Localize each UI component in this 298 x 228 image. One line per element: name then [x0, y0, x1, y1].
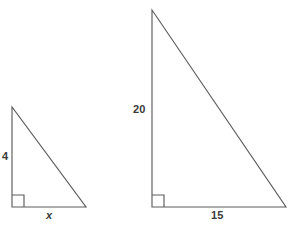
large-right-triangle-group	[152, 10, 286, 207]
small-right-triangle-group	[12, 107, 86, 207]
large-triangle-right-angle-icon	[152, 195, 164, 207]
cropped-caption-text	[0, 220, 298, 228]
small-triangle-right-angle-icon	[12, 195, 24, 207]
diagram-canvas: 4 x 20 15	[0, 0, 298, 228]
small-triangle-outline	[12, 107, 86, 207]
large-triangle-outline	[152, 10, 286, 207]
small-triangle-vertical-leg-label: 4	[2, 151, 8, 162]
triangles-vector-graphic	[0, 0, 298, 228]
large-triangle-vertical-leg-label: 20	[133, 104, 146, 115]
